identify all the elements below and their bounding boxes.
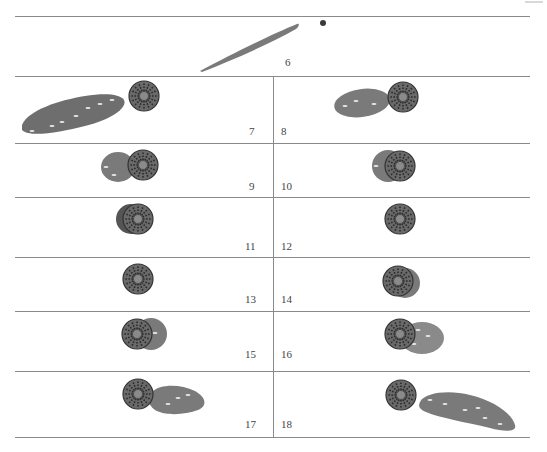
- panel-13-illustration: [123, 264, 153, 294]
- panel-label-12: 12: [281, 240, 292, 252]
- panel-11-illustration: [116, 204, 153, 234]
- panel-6-illustration: [200, 20, 326, 72]
- panel-label-17: 17: [245, 418, 256, 430]
- figure-illustrations: [0, 0, 547, 452]
- panel-12-illustration: [385, 204, 415, 234]
- panel-8-illustration: [332, 82, 418, 121]
- panel-10-illustration: [372, 150, 415, 182]
- panel-label-7: 7: [249, 125, 255, 137]
- panel-17-illustration: [123, 379, 204, 414]
- panel-label-13: 13: [245, 293, 256, 305]
- panel-label-10: 10: [281, 180, 292, 192]
- panel-7-illustration: [22, 81, 159, 134]
- panel-label-6: 6: [285, 56, 291, 68]
- panel-label-18: 18: [281, 418, 292, 430]
- panel-15-illustration: [122, 318, 167, 350]
- panel-label-11: 11: [245, 240, 256, 252]
- panel-label-9: 9: [249, 180, 255, 192]
- panel-14-illustration: [383, 266, 420, 298]
- panel-9-illustration: [101, 150, 158, 182]
- panel-18-illustration: [386, 380, 515, 431]
- panel-16-illustration: [385, 319, 444, 354]
- panel-label-15: 15: [245, 348, 256, 360]
- panel-label-14: 14: [281, 293, 292, 305]
- panel-label-8: 8: [281, 125, 287, 137]
- panel-label-16: 16: [281, 348, 292, 360]
